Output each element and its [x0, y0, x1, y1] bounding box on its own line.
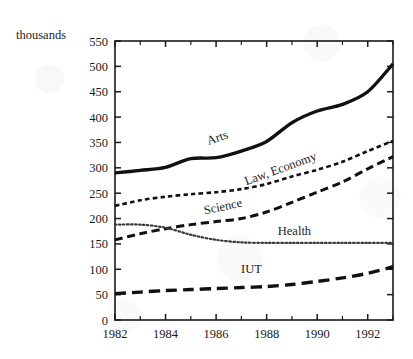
- svg-text:150: 150: [89, 237, 108, 251]
- series-label-iut: IUT: [241, 262, 262, 276]
- series-label-law-economy: Law, Economy: [243, 149, 319, 188]
- svg-text:250: 250: [89, 187, 108, 201]
- svg-text:1990: 1990: [305, 327, 330, 341]
- svg-text:450: 450: [89, 85, 108, 99]
- svg-text:400: 400: [89, 111, 108, 125]
- series-label-health: Health: [278, 224, 312, 238]
- series-inline-labels: ArtsArtsLaw, EconomyLaw, EconomyScienceS…: [202, 127, 319, 275]
- line-chart-plot: 050100150200250300350400450500550 198219…: [0, 0, 413, 359]
- svg-text:1982: 1982: [103, 327, 128, 341]
- series-line-health: [115, 224, 393, 242]
- series-label-science: Science: [202, 196, 243, 218]
- series-line-arts: [115, 64, 393, 173]
- series-label-arts: Arts: [205, 127, 230, 147]
- svg-text:500: 500: [89, 60, 108, 74]
- svg-text:350: 350: [89, 136, 108, 150]
- chart-container: thousands 050100150200250300350400450500…: [0, 0, 413, 359]
- svg-text:50: 50: [96, 288, 109, 302]
- svg-text:300: 300: [89, 161, 108, 175]
- x-axis-ticks: 198219841986198819901992: [103, 41, 394, 341]
- svg-text:100: 100: [89, 263, 108, 277]
- svg-text:0: 0: [102, 314, 108, 328]
- svg-text:1986: 1986: [204, 327, 229, 341]
- svg-text:1992: 1992: [355, 327, 380, 341]
- svg-text:550: 550: [89, 35, 108, 49]
- svg-text:200: 200: [89, 212, 108, 226]
- svg-text:1988: 1988: [254, 327, 279, 341]
- svg-text:1984: 1984: [153, 327, 179, 341]
